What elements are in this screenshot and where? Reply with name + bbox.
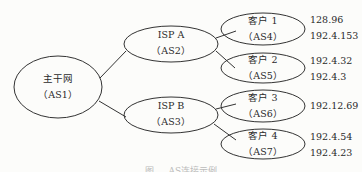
customer-3-as: （AS6） — [221, 106, 305, 122]
figure-caption: 图 … AS连接示例 — [0, 164, 362, 172]
customer-2-ip-2: 192.4.3 — [310, 71, 346, 83]
root-as: （AS1） — [14, 87, 102, 103]
customer-4-as: （AS7） — [221, 144, 305, 160]
customer-4-node: 客户 4 （AS7） — [221, 128, 305, 160]
customer-1-ip-1: 128.96 — [310, 14, 343, 26]
isp-b-as: （AS3） — [124, 114, 218, 130]
isp-a-node: ISP A （AS2） — [124, 27, 218, 59]
customer-1-name: 客户 1 — [221, 13, 305, 29]
customer-1-ip-2: 192.4.153 — [310, 30, 358, 42]
customer-1-node: 客户 1 （AS4） — [221, 13, 305, 45]
customer-4-ip-2: 192.4.23 — [310, 147, 352, 159]
customer-4-ip-1: 192.4.54 — [310, 131, 352, 143]
isp-a-as: （AS2） — [124, 43, 218, 59]
customer-1-as: （AS4） — [221, 29, 305, 45]
root-node: 主干网 （AS1） — [14, 71, 102, 103]
customer-4-name: 客户 4 — [221, 128, 305, 144]
customer-2-as: （AS5） — [221, 68, 305, 84]
customer-2-name: 客户 2 — [221, 52, 305, 68]
isp-b-node: ISP B （AS3） — [124, 98, 218, 130]
customer-3-name: 客户 3 — [221, 90, 305, 106]
isp-a-name: ISP A — [124, 27, 218, 43]
customer-2-node: 客户 2 （AS5） — [221, 52, 305, 84]
root-name: 主干网 — [14, 71, 102, 87]
customer-3-node: 客户 3 （AS6） — [221, 90, 305, 122]
isp-b-name: ISP B — [124, 98, 218, 114]
customer-2-ip-1: 192.4.32 — [310, 55, 352, 67]
customer-3-ip-1: 192.12.69 — [310, 100, 358, 112]
